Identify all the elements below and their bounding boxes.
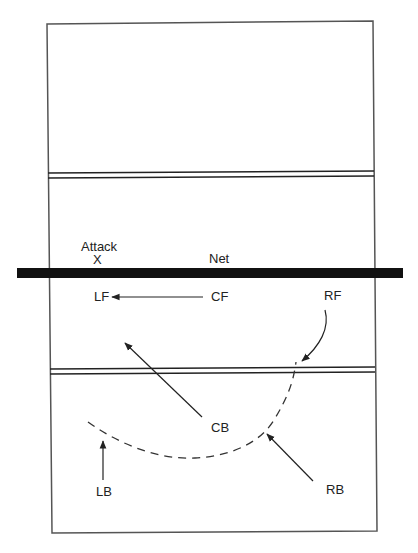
- rb-move-arrow: [267, 434, 313, 481]
- attack-marker: X: [93, 252, 102, 267]
- net: [17, 268, 403, 278]
- player-cb: CB: [211, 420, 229, 435]
- coverage-arc: [88, 362, 296, 458]
- far-attack-line: [48, 171, 374, 178]
- player-lf: LF: [94, 289, 109, 304]
- player-cf: CF: [211, 289, 228, 304]
- player-lb: LB: [96, 484, 112, 499]
- net-label: Net: [209, 251, 230, 266]
- near-attack-line: [50, 367, 375, 374]
- player-rb: RB: [326, 482, 344, 497]
- cb-move-arrow: [125, 343, 202, 417]
- player-rf: RF: [324, 288, 341, 303]
- rf-move-arrow: [302, 310, 326, 361]
- court-diagram: Attack X Net LF CF RF CB LB RB: [0, 0, 418, 553]
